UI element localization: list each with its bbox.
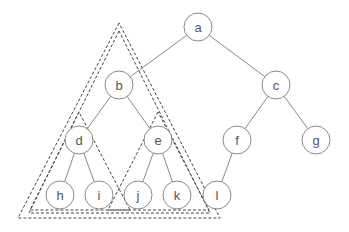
node-label: k [174, 188, 181, 203]
node-c: c [262, 71, 290, 99]
node-i: i [85, 181, 113, 209]
node-label: d [75, 133, 82, 148]
node-b: b [105, 71, 133, 99]
node-h: h [46, 181, 74, 209]
tree-diagram: abcdefghijkl [0, 0, 349, 232]
node-j: j [124, 181, 152, 209]
node-label: a [194, 20, 202, 35]
edge-b-e [127, 96, 150, 128]
node-d: d [65, 126, 93, 154]
node-l: l [203, 181, 231, 209]
edge-e-j [143, 153, 153, 182]
node-a: a [184, 13, 212, 41]
node-label: f [235, 133, 239, 148]
node-e: e [144, 126, 172, 154]
edge-d-i [84, 153, 94, 182]
node-label: g [312, 133, 319, 148]
edge-f-l [222, 153, 232, 182]
tree-edges [65, 35, 308, 182]
node-label: i [98, 188, 101, 203]
tree-nodes: abcdefghijkl [46, 13, 330, 209]
node-label: c [273, 78, 280, 93]
node-label: e [154, 133, 161, 148]
edge-b-d [87, 96, 111, 128]
edge-a-c [209, 35, 265, 76]
node-k: k [163, 181, 191, 209]
edge-e-k [163, 153, 173, 182]
node-label: b [115, 78, 122, 93]
node-g: g [302, 126, 330, 154]
edge-c-f [245, 96, 268, 128]
node-label: j [136, 188, 140, 203]
edge-a-b [130, 35, 186, 76]
node-label: h [56, 188, 63, 203]
edge-d-h [65, 153, 75, 182]
edge-c-g [284, 96, 308, 128]
node-label: l [216, 188, 219, 203]
node-f: f [223, 126, 251, 154]
